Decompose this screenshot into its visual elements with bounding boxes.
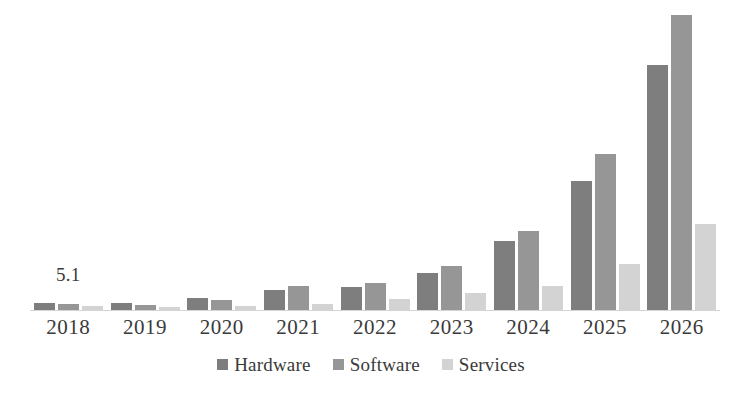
bar-groups: 5.1 [30,8,720,310]
x-tick-2024: 2024 [490,313,567,341]
bar-software-2025[interactable] [595,154,616,310]
bar-services-2022[interactable] [389,299,410,310]
bar-software-2022[interactable] [365,283,386,310]
data-label-2018: 5.1 [56,265,81,284]
bar-services-2023[interactable] [465,293,486,310]
bar-software-2023[interactable] [441,266,462,310]
bar-hardware-2018[interactable] [34,303,55,310]
bar-group-2022 [337,8,414,310]
legend-label-software: Software [350,355,420,374]
bar-hardware-2021[interactable] [264,290,285,310]
bar-group-2025 [567,8,644,310]
bar-services-2026[interactable] [695,224,716,310]
x-tick-2021: 2021 [260,313,337,341]
bar-hardware-2026[interactable] [647,65,668,310]
bar-hardware-2024[interactable] [494,241,515,310]
category-axis-labels: 201820192020202120222023202420252026 [30,313,720,341]
bar-group-2026 [643,8,720,310]
bar-group-2019 [107,8,184,310]
bar-services-2025[interactable] [619,264,640,310]
legend-label-services: Services [459,355,525,374]
legend-item-hardware[interactable]: Hardware [217,355,311,374]
bar-group-2020 [183,8,260,310]
bar-hardware-2023[interactable] [417,273,438,310]
bar-software-2026[interactable] [671,15,692,310]
category-axis-line [30,310,720,311]
bar-group-2018: 5.1 [30,8,107,310]
plot-area: 5.1 [30,8,720,311]
bar-services-2024[interactable] [542,286,563,310]
x-tick-2018: 2018 [30,313,107,341]
bar-software-2024[interactable] [518,231,539,310]
bar-hardware-2019[interactable] [111,303,132,310]
x-tick-2020: 2020 [183,313,260,341]
bar-software-2021[interactable] [288,286,309,310]
legend-item-services[interactable]: Services [442,355,525,374]
x-tick-2025: 2025 [567,313,644,341]
bar-hardware-2025[interactable] [571,181,592,310]
bar-chart: 5.1 201820192020202120222023202420252026… [0,0,742,405]
legend-swatch-services-icon [442,359,453,370]
bar-hardware-2020[interactable] [187,298,208,310]
bar-group-2023 [413,8,490,310]
bar-group-2021 [260,8,337,310]
bar-group-2024 [490,8,567,310]
x-tick-2022: 2022 [337,313,414,341]
x-tick-2019: 2019 [107,313,184,341]
x-tick-2026: 2026 [643,313,720,341]
legend-swatch-hardware-icon [217,359,228,370]
bar-hardware-2022[interactable] [341,287,362,310]
legend-label-hardware: Hardware [234,355,311,374]
x-tick-2023: 2023 [413,313,490,341]
legend-item-software[interactable]: Software [333,355,420,374]
legend-swatch-software-icon [333,359,344,370]
chart-legend: HardwareSoftwareServices [0,355,742,374]
bar-software-2020[interactable] [211,300,232,311]
